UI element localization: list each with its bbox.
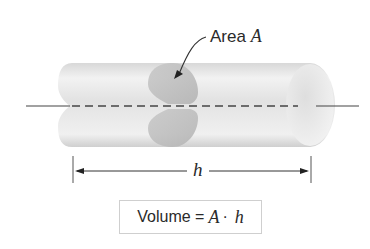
formula-box: Volume = A · h (119, 200, 262, 234)
formula-h: h (235, 207, 244, 228)
area-label-text: Area (210, 27, 246, 46)
cylinder-end-cap (286, 64, 334, 146)
area-label-symbol: A (251, 26, 262, 46)
formula-dot: · (222, 208, 227, 226)
area-label: Area A (210, 27, 262, 45)
arrow-left-icon (75, 168, 84, 174)
formula-lhs: Volume = (137, 208, 204, 226)
length-label: h (187, 160, 209, 179)
arrow-right-icon (300, 168, 309, 174)
cylinder-volume-diagram: Area A h Volume = A · h (0, 0, 370, 249)
cylinder (58, 63, 335, 147)
formula-a: A (208, 207, 219, 228)
